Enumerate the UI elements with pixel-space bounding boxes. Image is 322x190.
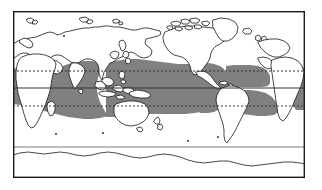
distribution-map-figure (0, 0, 322, 190)
world-map-svg (0, 0, 322, 190)
map-content (13, 11, 305, 178)
